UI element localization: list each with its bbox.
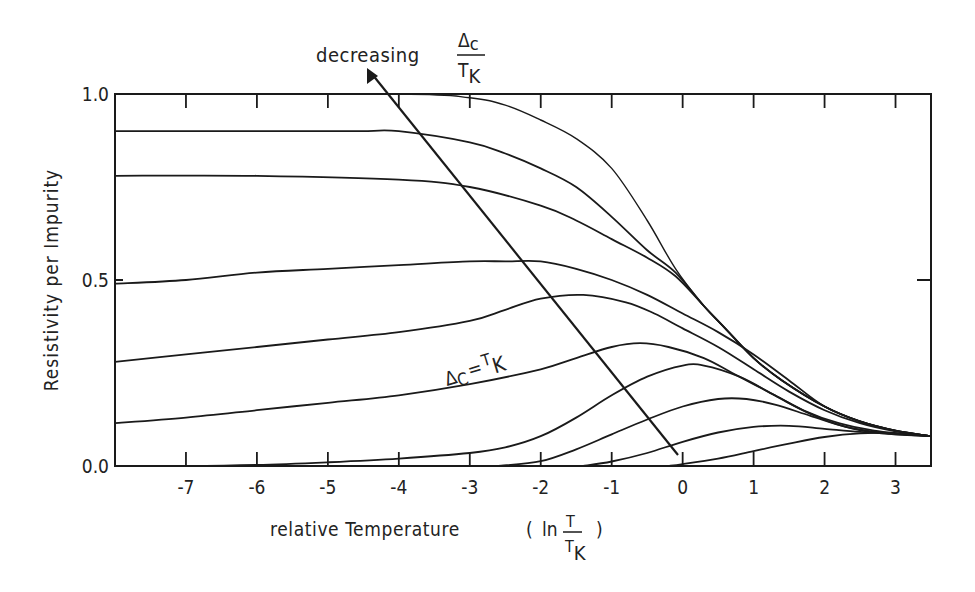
x-tick-label: 1 [748,476,759,498]
x-tick-label: 2 [819,476,830,498]
y-tick-label: 0.0 [82,455,109,477]
ticks-group [115,94,931,466]
decreasing-arrow [367,68,678,455]
series-curve-6 [115,343,931,436]
x-axis-label: relative Temperature ( ln T TK ) [270,512,603,565]
y-axis-label: Resistivity per Impurity [40,169,62,391]
svg-text:(: ( [526,518,533,540]
svg-text:ln: ln [542,518,558,540]
x-tick-label: -2 [532,476,549,498]
x-tick-label: -4 [390,476,407,498]
annotation-fraction-numerator: Δc [458,29,479,54]
svg-text:T: T [565,512,575,531]
decreasing-annotation: decreasing Δc TK [316,29,485,88]
x-tick-label: -5 [319,476,336,498]
series-curve-10 [669,433,932,466]
series-curve-1 [115,94,931,436]
delta-equals-tk-annotation: ΔC=TK [440,346,509,394]
chart: -7-6-5-4-3-2-101230.00.51.0 decreasing Δ… [0,0,975,592]
y-tick-label: 0.5 [82,269,109,291]
x-tick-label: -6 [248,476,265,498]
x-tick-label: -7 [177,476,194,498]
annotation-fraction-denominator: TK [457,59,481,88]
tick-labels-group: -7-6-5-4-3-2-101230.00.51.0 [82,83,901,498]
x-axis-label-text: relative Temperature [270,518,460,540]
svg-text:ΔC=TK: ΔC=TK [440,346,509,394]
annotation-decreasing-text: decreasing [316,43,420,67]
curves-group [115,94,931,466]
x-tick-label: -1 [603,476,620,498]
svg-text:): ) [596,518,603,540]
x-tick-label: 3 [890,476,901,498]
x-tick-label: -3 [461,476,478,498]
series-curve-3 [115,176,931,437]
plot-frame [115,94,931,466]
y-tick-label: 1.0 [82,83,109,105]
x-tick-label: 0 [677,476,688,498]
svg-text:TK: TK [564,537,587,565]
